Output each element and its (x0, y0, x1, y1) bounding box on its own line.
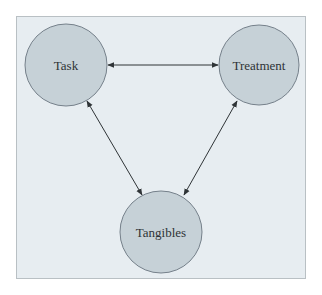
edge-task-tangibles (87, 101, 142, 195)
edge-treatment-tangibles (184, 101, 237, 195)
node-treatment: Treatment (219, 25, 299, 105)
node-tangibles: Tangibles (120, 191, 202, 273)
node-tangibles-label: Tangibles (136, 225, 186, 240)
relationship-diagram: Task Treatment Tangibles (0, 0, 322, 295)
node-treatment-label: Treatment (233, 58, 286, 73)
node-task: Task (25, 24, 107, 106)
node-task-label: Task (54, 58, 79, 73)
